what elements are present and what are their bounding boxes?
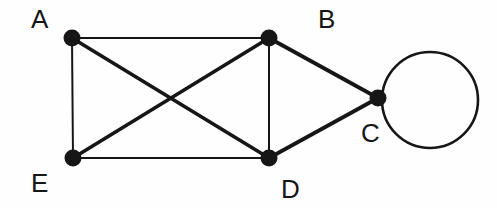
edge-B-C (269, 38, 378, 98)
vertex-label-B: B (318, 6, 335, 32)
edge-group (72, 38, 378, 158)
vertex-B[interactable] (261, 30, 278, 47)
vertex-group (64, 30, 387, 167)
self-loop-group (382, 52, 478, 148)
graph-drawing (0, 0, 497, 208)
vertex-label-E: E (31, 170, 48, 196)
vertex-A[interactable] (64, 30, 81, 47)
vertex-C[interactable] (370, 90, 387, 107)
edge-A-E (72, 38, 73, 158)
vertex-label-A: A (31, 6, 48, 32)
vertex-D[interactable] (261, 150, 278, 167)
vertex-E[interactable] (65, 150, 82, 167)
vertex-label-C: C (361, 120, 380, 146)
self-loop-C (382, 52, 478, 148)
vertex-label-D: D (281, 176, 300, 202)
graph-diagram-canvas: A B C D E (0, 0, 497, 208)
